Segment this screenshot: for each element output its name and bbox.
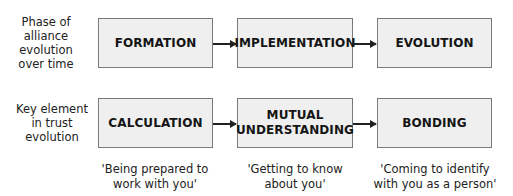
caption-line: 'Being prepared to xyxy=(90,162,220,177)
box-label: BONDING xyxy=(402,116,466,131)
caption-bonding: 'Coming to identify with you as a person… xyxy=(370,162,500,192)
arrow-right-icon xyxy=(213,123,236,125)
label-line: in trust xyxy=(8,116,96,130)
box-calculation: CALCULATION xyxy=(98,98,213,148)
caption-line: work with you' xyxy=(90,177,220,192)
box-mutual-understanding: MUTUAL UNDERSTANDING xyxy=(237,98,353,148)
box-formation: FORMATION xyxy=(98,18,213,68)
label-line: Key element xyxy=(8,102,96,116)
box-label: EVOLUTION xyxy=(395,36,473,51)
caption-mutual-understanding: 'Getting to know about you' xyxy=(230,162,360,192)
box-label: CALCULATION xyxy=(108,116,202,131)
caption-calculation: 'Being prepared to work with you' xyxy=(90,162,220,192)
box-label: MUTUAL xyxy=(267,108,324,123)
caption-line: 'Getting to know xyxy=(230,162,360,177)
label-line: Phase of xyxy=(2,15,90,29)
box-evolution: EVOLUTION xyxy=(377,18,492,68)
label-line: evolution xyxy=(2,43,90,57)
label-line: over time xyxy=(2,57,90,71)
box-implementation: IMPLEMENTATION xyxy=(237,18,353,68)
caption-line: 'Coming to identify xyxy=(370,162,500,177)
box-label: UNDERSTANDING xyxy=(236,123,354,138)
label-line: evolution xyxy=(8,130,96,144)
arrow-right-icon xyxy=(353,123,376,125)
arrow-right-icon xyxy=(353,43,376,45)
caption-line: with you as a person' xyxy=(370,177,500,192)
arrow-right-icon xyxy=(213,43,236,45)
box-label: IMPLEMENTATION xyxy=(234,36,355,51)
row-label-phase: Phase of alliance evolution over time xyxy=(2,15,90,71)
caption-line: about you' xyxy=(230,177,360,192)
label-line: alliance xyxy=(2,29,90,43)
row-label-trust: Key element in trust evolution xyxy=(8,102,96,144)
box-label: FORMATION xyxy=(115,36,197,51)
box-bonding: BONDING xyxy=(377,98,492,148)
